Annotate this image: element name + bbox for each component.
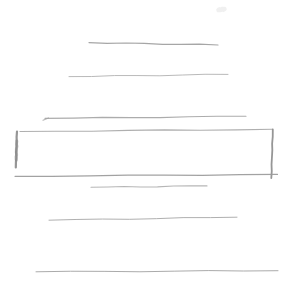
text-line-1 xyxy=(89,43,218,45)
wireframe-sketch xyxy=(0,0,296,286)
box-left-edge-overdraw xyxy=(16,141,17,160)
box-right-edge xyxy=(271,130,273,179)
input-box xyxy=(15,129,278,178)
box-top-edge xyxy=(20,129,273,131)
text-line-2 xyxy=(69,74,228,76)
text-line-6 xyxy=(36,271,278,272)
faint-smudge xyxy=(219,9,225,10)
text-line-3 xyxy=(45,116,246,118)
sketch-canvas xyxy=(0,0,296,286)
text-line-5 xyxy=(49,217,237,220)
text-line-4 xyxy=(91,186,207,187)
box-bottom-edge xyxy=(15,174,278,176)
